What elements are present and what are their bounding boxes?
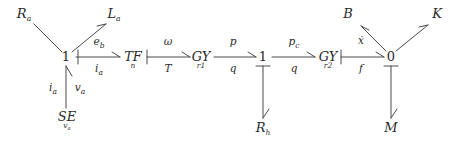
- bond-label-eb-sub: b: [100, 41, 105, 50]
- bond-SE-to-junction1: [66, 66, 72, 108]
- bond-label-qc-flow: q: [291, 63, 298, 74]
- bond-label-ia-vertical: ia: [49, 82, 57, 93]
- bond-GY1-to-junction2: [214, 52, 256, 57]
- element-Rh-main: R: [256, 120, 266, 135]
- element-GY2: GY r2: [319, 50, 338, 70]
- bond-label-torque-flow: T: [164, 63, 171, 74]
- bond-label-va-vertical-sub: a: [81, 87, 85, 96]
- bond-label-ia-vertical-sub: a: [52, 87, 56, 96]
- element-Rh: Rh: [256, 121, 271, 134]
- element-SE: SE va: [58, 110, 76, 130]
- element-GY1: GY r1: [192, 50, 211, 70]
- bond-graph-diagram: Ra La SE va TF n GY r1 GY r2 Rh B K M 1 …: [0, 0, 458, 143]
- bond-label-va-vertical: va: [75, 82, 85, 93]
- element-La: La: [107, 7, 120, 20]
- junction-0: 0: [387, 50, 395, 63]
- bond-label-omega-effort: ω: [164, 36, 173, 47]
- bond-label-ia-sub: a: [98, 68, 102, 77]
- junction-1-right: 1: [259, 50, 267, 63]
- bond-label-eb-effort: eb: [93, 36, 104, 47]
- element-K: K: [432, 7, 442, 20]
- element-M: M: [384, 121, 397, 134]
- bond-junction2-to-Rh: [256, 66, 270, 118]
- element-SE-sub-a: a: [67, 125, 70, 131]
- element-Ra-sub: a: [27, 14, 31, 23]
- bond-label-xdot-effort: ẋ: [358, 35, 364, 46]
- bond-junction1-to-Ra: [34, 24, 62, 52]
- element-La-main: L: [107, 6, 116, 21]
- element-GY2-sub-index: 2: [327, 61, 332, 70]
- bond-label-pc-main: p: [289, 35, 296, 47]
- bond-label-pc-effort: pc: [289, 36, 300, 47]
- bond-junction0-to-B: [361, 26, 386, 51]
- element-TF: TF n: [124, 50, 142, 70]
- element-La-sub: a: [116, 14, 120, 23]
- bond-junction0-to-M: [384, 66, 398, 118]
- bond-junction2-to-GY2: [272, 52, 315, 57]
- bond-label-pc-sub: c: [295, 41, 299, 50]
- bond-label-p-effort: p: [230, 36, 237, 47]
- bond-label-ia-flow: ia: [95, 63, 103, 74]
- element-Ra: Ra: [17, 7, 31, 20]
- element-Ra-main: R: [17, 6, 27, 21]
- bond-label-f-flow: f: [359, 63, 363, 74]
- element-Rh-sub: h: [265, 128, 270, 137]
- bond-label-q-flow: q: [230, 63, 237, 74]
- element-B: B: [343, 7, 353, 20]
- junction-1-left: 1: [62, 50, 70, 63]
- element-GY1-sub-index: 1: [200, 61, 205, 70]
- bond-junction0-to-K: [396, 25, 428, 51]
